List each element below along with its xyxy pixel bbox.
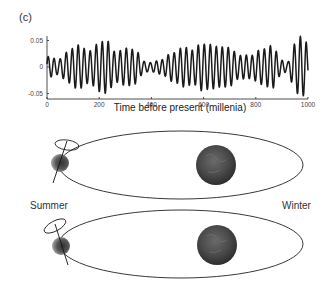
orbit-ellipse-bottom <box>59 210 303 278</box>
y-tick-label: -0.05 <box>13 90 43 97</box>
x-tick-label: 200 <box>84 101 114 108</box>
winter-label: Winter <box>282 200 311 211</box>
x-tick-label: 600 <box>189 101 219 108</box>
precession-circle-top <box>54 138 79 151</box>
sun-bottom <box>197 225 237 265</box>
sun-top <box>196 145 236 185</box>
y-tick-label: 0.05 <box>13 37 43 44</box>
signal-line <box>47 36 308 95</box>
earth-bottom <box>52 237 70 255</box>
orbit-ellipse-top <box>59 131 303 199</box>
x-tick-label: 0 <box>32 101 62 108</box>
orbit-diagram-bottom <box>42 210 303 278</box>
orbit-diagram-top <box>51 131 303 199</box>
x-tick-label: 400 <box>136 101 166 108</box>
x-tick-label: 1000 <box>293 101 323 108</box>
y-tick-label: 0 <box>13 63 43 70</box>
chart-figure <box>0 0 330 289</box>
summer-label: Summer <box>30 200 68 211</box>
x-tick-label: 800 <box>241 101 271 108</box>
precession-circle-bottom <box>42 216 68 236</box>
